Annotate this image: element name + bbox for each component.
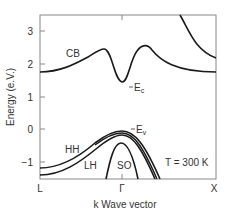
label-cb: CB — [66, 48, 80, 59]
y-axis-label: Energy (e.V.) — [5, 68, 16, 126]
upper-conduction-branch — [180, 15, 216, 58]
heavy-hole-band-2 — [95, 133, 157, 179]
label-ec: Ec — [134, 82, 145, 94]
ytick-2: 2 — [27, 59, 33, 70]
band-diagram: 3 2 1 0 −1 L Γ X k Wave vector Energy (e… — [0, 0, 231, 218]
label-hh: HH — [65, 144, 79, 155]
ytick-3: 3 — [27, 26, 33, 37]
label-ev: Ev — [136, 124, 147, 136]
label-lh: LH — [84, 160, 97, 171]
ytick-minus1: −1 — [22, 157, 34, 168]
temperature-label: T = 300 K — [165, 157, 209, 168]
xtick-X: X — [211, 183, 218, 194]
ytick-1: 1 — [27, 92, 33, 103]
xtick-gamma: Γ — [119, 183, 125, 194]
label-so: SO — [117, 160, 132, 171]
ytick-0: 0 — [27, 124, 33, 135]
xtick-L: L — [37, 183, 43, 194]
x-axis-label: k Wave vector — [94, 199, 158, 210]
